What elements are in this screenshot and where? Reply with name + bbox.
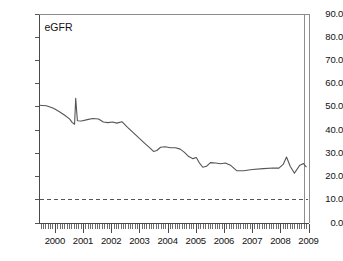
series-caption-label: eGFR bbox=[45, 21, 73, 33]
series-plot-area bbox=[0, 0, 343, 261]
egfr-line-chart: 90.080.070.060.050.040.030.020.010.00.0 … bbox=[0, 0, 343, 261]
egfr-series-line bbox=[39, 98, 306, 173]
